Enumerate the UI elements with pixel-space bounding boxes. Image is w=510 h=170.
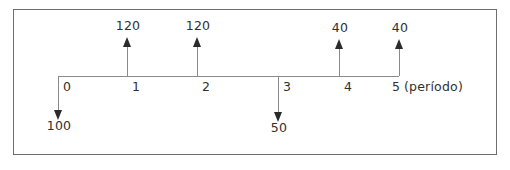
period-tick-label-2: 2 — [202, 79, 210, 94]
inflow-arrowhead-period-5 — [395, 39, 403, 49]
inflow-arrowhead-period-2 — [193, 37, 201, 47]
inflow-arrowhead-period-4 — [335, 39, 343, 49]
period-tick-label-5: 5 — [392, 79, 400, 94]
period-tick-label-4: 4 — [344, 79, 352, 94]
outflow-amount-period-0: 100 — [39, 118, 79, 133]
time-axis-line — [58, 76, 399, 77]
inflow-amount-period-1: 120 — [107, 18, 149, 33]
outflow-shaft-period-0 — [58, 76, 59, 112]
period-tick-label-0: 0 — [63, 79, 71, 94]
axis-unit-caption: (período) — [404, 79, 463, 94]
inflow-shaft-period-5 — [399, 48, 400, 76]
cash-flow-diagram: 100 0 120 1 120 2 50 3 40 4 40 5 (períod… — [0, 0, 510, 170]
outflow-amount-period-3: 50 — [259, 120, 299, 135]
inflow-shaft-period-2 — [197, 46, 198, 76]
period-tick-label-3: 3 — [283, 79, 291, 94]
figure-border: 100 0 120 1 120 2 50 3 40 4 40 5 (períod… — [13, 9, 497, 155]
outflow-shaft-period-3 — [278, 76, 279, 114]
inflow-shaft-period-1 — [127, 46, 128, 76]
inflow-shaft-period-4 — [339, 48, 340, 76]
inflow-amount-period-2: 120 — [177, 18, 219, 33]
inflow-arrowhead-period-1 — [123, 37, 131, 47]
inflow-amount-period-4: 40 — [323, 20, 357, 35]
period-tick-label-1: 1 — [132, 79, 140, 94]
inflow-amount-period-5: 40 — [383, 20, 417, 35]
